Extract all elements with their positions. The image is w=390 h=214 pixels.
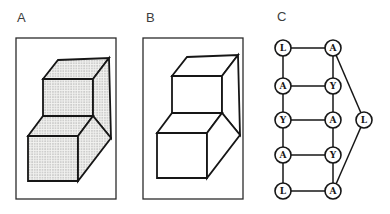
figure-root: A B C LAYALAYAYAL xyxy=(0,0,390,214)
graph-node-label-r5: A xyxy=(329,186,338,196)
graph-node-label-f1: L xyxy=(361,115,368,125)
graph-node-label-l4: A xyxy=(279,150,288,160)
figure-canvas: LAYALAYAYAL xyxy=(0,0,390,214)
graph-node-label-l3: Y xyxy=(279,115,287,125)
graph-node-label-l5: L xyxy=(280,186,287,196)
panel-a-lower-front-face xyxy=(28,136,78,181)
panel-b-upper-front-face xyxy=(172,76,222,113)
graph-node-label-r3: A xyxy=(329,115,338,125)
graph-node-label-r1: A xyxy=(329,43,338,53)
panel-b-lower-front-face xyxy=(157,133,207,178)
graph-node-label-l1: L xyxy=(280,43,287,53)
graph-node-label-r2: Y xyxy=(329,81,337,91)
graph-node-label-l2: A xyxy=(279,81,288,91)
panel-a-upper-front-face xyxy=(43,79,93,116)
graph-node-label-r4: Y xyxy=(329,150,337,160)
